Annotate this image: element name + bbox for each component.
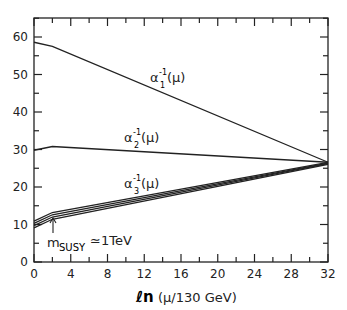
svg-text:α: α: [124, 130, 133, 145]
svg-text:16: 16: [173, 267, 188, 281]
label-alpha1: α -1 1 (μ): [150, 68, 185, 90]
svg-text:ℓn: ℓn: [135, 288, 154, 306]
x-axis-label: ℓn (μ/130 GeV): [135, 288, 237, 306]
svg-text:3: 3: [134, 187, 139, 196]
svg-text:12: 12: [137, 267, 152, 281]
svg-text:SUSY: SUSY: [59, 242, 86, 253]
svg-text:-1: -1: [159, 68, 167, 77]
svg-text:20: 20: [210, 267, 225, 281]
svg-text:40: 40: [13, 105, 28, 119]
svg-text:(μ): (μ): [141, 130, 159, 145]
svg-text:2: 2: [134, 141, 139, 150]
svg-text:8: 8: [104, 267, 112, 281]
svg-text:30: 30: [13, 143, 28, 157]
svg-text:32: 32: [320, 267, 335, 281]
svg-text:(μ): (μ): [141, 176, 159, 191]
svg-text:28: 28: [284, 267, 299, 281]
svg-text:0: 0: [20, 255, 28, 269]
svg-text:1: 1: [160, 81, 165, 90]
svg-text:(μ): (μ): [167, 70, 185, 85]
msusy-annotation: m SUSY ≃1TeV: [47, 218, 132, 253]
svg-text:-1: -1: [133, 174, 141, 183]
svg-text:0: 0: [30, 267, 38, 281]
label-alpha3: α -1 3 (μ): [124, 174, 159, 196]
svg-text:-1: -1: [133, 128, 141, 137]
svg-text:24: 24: [247, 267, 262, 281]
svg-text:m: m: [47, 235, 60, 250]
svg-text:20: 20: [13, 180, 28, 194]
plot-frame: [34, 18, 328, 262]
svg-text:≃1TeV: ≃1TeV: [90, 233, 132, 248]
axis-ticks: [34, 18, 328, 262]
svg-text:4: 4: [67, 267, 75, 281]
svg-text:60: 60: [13, 30, 28, 44]
chart: 0481216202428320102030405060 α -1 1 (μ) …: [0, 0, 347, 310]
svg-text:α: α: [124, 176, 133, 191]
label-alpha2: α -1 2 (μ): [124, 128, 159, 150]
svg-text:50: 50: [13, 68, 28, 82]
svg-text:(μ/130 GeV): (μ/130 GeV): [158, 290, 237, 305]
svg-text:10: 10: [13, 218, 28, 232]
svg-text:α: α: [150, 70, 159, 85]
